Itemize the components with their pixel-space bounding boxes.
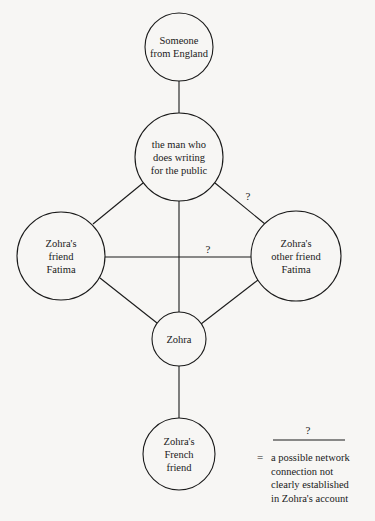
legend-symbol: ? xyxy=(306,424,311,436)
label-line: does writing xyxy=(151,151,208,164)
edge-fatima1-zohra xyxy=(100,278,157,323)
label-line: for the public xyxy=(151,164,208,177)
label-line: Zohra xyxy=(166,333,191,346)
label-line: French xyxy=(163,448,194,461)
edge-fatima2-zohra xyxy=(201,280,258,324)
legend-equals: = xyxy=(257,451,263,463)
label-line: Zohra's xyxy=(163,435,194,448)
edge-writer-fatima1 xyxy=(93,183,143,224)
uncertain-mark-fatima1-fatima2: ? xyxy=(206,243,211,255)
legend-line-text: connection not xyxy=(271,465,350,479)
label-line: friend xyxy=(163,461,194,474)
legend-line-text: clearly established xyxy=(271,478,350,492)
legend-description: a possible network connection not clearl… xyxy=(271,451,350,505)
label-fatima1: Zohra's friend Fatima xyxy=(45,237,76,276)
label-line: Fatima xyxy=(45,263,76,276)
label-line: from England xyxy=(150,47,208,60)
legend-line-text: in Zohra's account xyxy=(271,492,350,506)
label-fatima2: Zohra's other friend Fatima xyxy=(271,237,320,276)
label-zohra: Zohra xyxy=(166,333,191,346)
label-line: other friend xyxy=(271,250,320,263)
uncertain-mark-writer-fatima2: ? xyxy=(246,190,251,202)
label-line: the man who xyxy=(151,138,208,151)
label-line: Someone xyxy=(150,34,208,47)
label-line: Fatima xyxy=(271,263,320,276)
label-line: Zohra's xyxy=(271,237,320,250)
label-writer: the man who does writing for the public xyxy=(151,138,208,177)
label-england: Someone from England xyxy=(150,34,208,60)
edge-writer-fatima2 xyxy=(215,183,265,224)
label-line: Zohra's xyxy=(45,237,76,250)
label-line: friend xyxy=(45,250,76,263)
label-french: Zohra's French friend xyxy=(163,435,194,474)
legend-line-text: a possible network xyxy=(271,451,350,465)
